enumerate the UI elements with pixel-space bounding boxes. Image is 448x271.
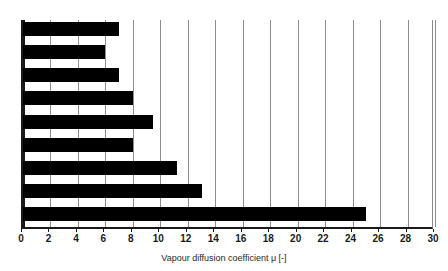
- x-tick-mark: [21, 229, 22, 232]
- bar: [23, 45, 105, 59]
- x-tick-mark: [213, 229, 214, 232]
- bars-layer: [23, 20, 432, 227]
- x-tick-mark: [351, 229, 352, 232]
- x-tick-mark: [103, 229, 104, 232]
- bar-row: [23, 68, 435, 82]
- x-tick-mark: [76, 229, 77, 232]
- bar: [23, 161, 177, 175]
- bar-row: [23, 91, 435, 105]
- x-tick-mark: [406, 229, 407, 232]
- x-tick-label: 24: [345, 233, 356, 245]
- bar-row: [23, 207, 435, 221]
- x-tick-label: 2: [46, 233, 52, 245]
- bar-row: [23, 138, 435, 152]
- bar-row: [23, 184, 435, 198]
- x-tick-mark: [296, 229, 297, 232]
- x-axis: 024681012141618202224262830: [21, 229, 433, 249]
- bar-row: [23, 161, 435, 175]
- bar-chart: 024681012141618202224262830 Vapour diffu…: [0, 0, 448, 271]
- x-tick-label: 16: [235, 233, 246, 245]
- x-tick-label: 18: [263, 233, 274, 245]
- x-tick-label: 28: [400, 233, 411, 245]
- bar: [23, 115, 153, 129]
- x-tick-label: 8: [128, 233, 134, 245]
- x-tick-mark: [241, 229, 242, 232]
- x-tick-label: 26: [373, 233, 384, 245]
- x-tick-mark: [378, 229, 379, 232]
- x-tick-label: 22: [318, 233, 329, 245]
- x-tick-label: 10: [153, 233, 164, 245]
- x-tick-label: 12: [180, 233, 191, 245]
- x-tick-mark: [131, 229, 132, 232]
- x-tick-mark: [186, 229, 187, 232]
- x-tick-mark: [48, 229, 49, 232]
- bar-row: [23, 115, 435, 129]
- bar: [23, 68, 119, 82]
- x-tick-mark: [268, 229, 269, 232]
- bar: [23, 184, 202, 198]
- x-tick-mark: [433, 229, 434, 232]
- x-tick-mark: [158, 229, 159, 232]
- gridline-30: [435, 20, 436, 227]
- x-tick-label: 30: [427, 233, 438, 245]
- x-axis-title: Vapour diffusion coefficient μ [-]: [0, 252, 448, 264]
- x-tick-label: 6: [101, 233, 107, 245]
- plot-area: [21, 20, 433, 229]
- bar: [23, 91, 133, 105]
- x-tick-label: 14: [208, 233, 219, 245]
- x-tick-label: 20: [290, 233, 301, 245]
- bar-row: [23, 22, 435, 36]
- x-tick-label: 0: [18, 233, 24, 245]
- bar: [23, 138, 133, 152]
- x-tick-label: 4: [73, 233, 79, 245]
- bar-row: [23, 45, 435, 59]
- x-tick-mark: [323, 229, 324, 232]
- bar: [23, 22, 119, 36]
- bar: [23, 207, 366, 221]
